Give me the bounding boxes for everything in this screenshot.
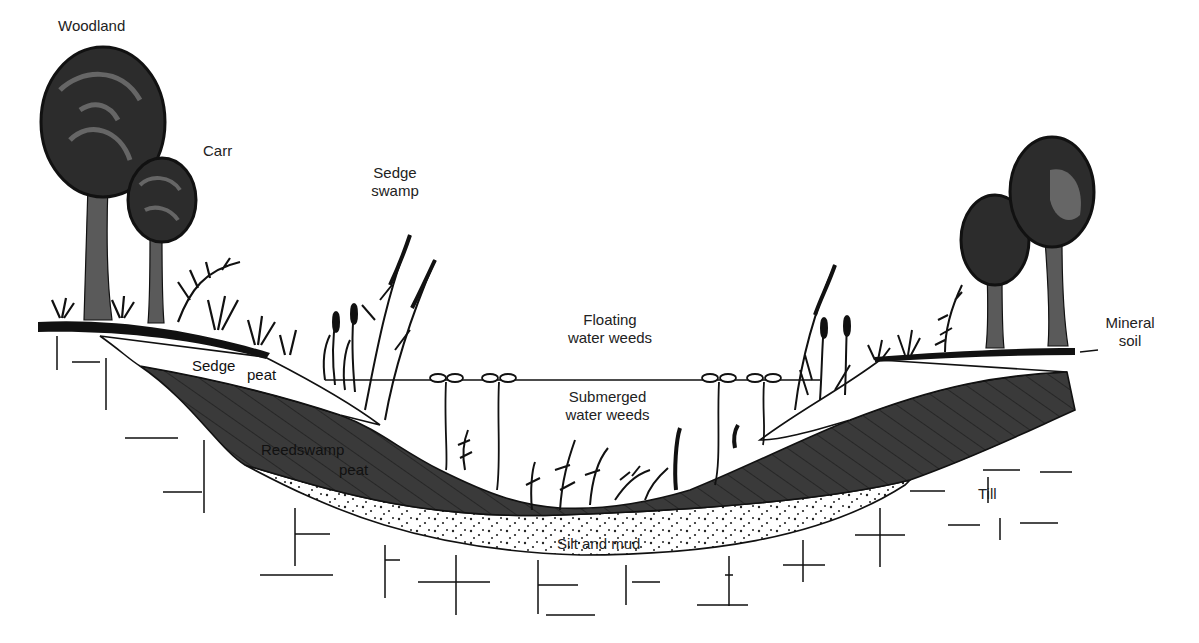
label-submerged-water-weeds: Submerged water weeds (550, 388, 665, 424)
label-sedge-swamp-line2: swamp (365, 182, 425, 200)
label-reedswamp-line2: peat (339, 461, 368, 479)
label-mineral-line2: soil (1095, 332, 1165, 350)
label-mineral-line1: Mineral (1095, 314, 1165, 332)
mineral-soil-pointer (1080, 350, 1098, 352)
label-silt-and-mud: Silt and mud (557, 535, 640, 553)
label-sedge-swamp: Sedge swamp (365, 164, 425, 200)
label-sedge-peat-b: peat (247, 366, 276, 384)
label-till: Till (978, 485, 997, 503)
label-sedge-peat-a: Sedge (192, 357, 235, 375)
label-carr: Carr (203, 142, 232, 160)
label-floating-line1: Floating (555, 311, 665, 329)
label-woodland: Woodland (58, 17, 125, 35)
label-floating-line2: water weeds (555, 329, 665, 347)
label-mineral-soil: Mineral soil (1095, 314, 1165, 350)
label-sedge-swamp-line1: Sedge (365, 164, 425, 182)
label-floating-water-weeds: Floating water weeds (555, 311, 665, 347)
label-submerged-line2: water weeds (550, 406, 665, 424)
carr-tree (128, 158, 196, 323)
sedge-swamp-reeds-left (324, 235, 435, 420)
label-submerged-line1: Submerged (550, 388, 665, 406)
label-reedswamp-line1: Reedswamp (261, 441, 344, 459)
